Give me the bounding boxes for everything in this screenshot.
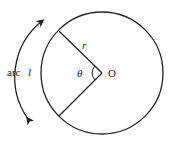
arc-label-var: l <box>28 66 31 78</box>
center-label: O <box>108 67 116 79</box>
radius-lower <box>59 73 102 116</box>
radius-label: r <box>82 39 87 51</box>
angle-label: θ <box>77 67 83 79</box>
arc-label-prefix: arc <box>7 66 21 78</box>
sector-diagram: r θ O arc l <box>0 0 172 141</box>
angle-arc <box>92 66 95 80</box>
